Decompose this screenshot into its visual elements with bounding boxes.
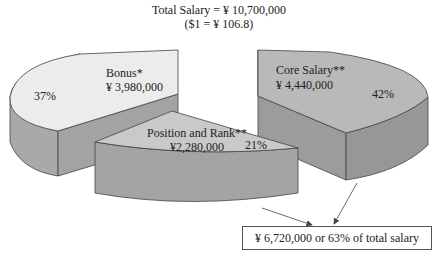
arrow-core-to-callout	[334, 183, 357, 224]
position-rank-amount-label: ¥2,280,000	[170, 140, 224, 154]
position-rank-percent-label: 21%	[245, 138, 267, 152]
arrow-position-to-callout	[262, 208, 312, 225]
bonus-amount-label: ¥ 3,980,000	[106, 80, 163, 94]
core-salary-amount-label: ¥ 4,440,000	[276, 78, 333, 92]
total-callout-box: ¥ 6,720,000 or 63% of total salary	[242, 226, 432, 250]
position-rank-name-label: Position and Rank**	[147, 126, 247, 140]
bonus-percent-label: 37%	[34, 89, 56, 103]
bonus-name-label: Bonus*	[106, 66, 143, 80]
core-salary-percent-label: 42%	[372, 87, 394, 101]
core-salary-name-label: Core Salary**	[276, 63, 345, 77]
